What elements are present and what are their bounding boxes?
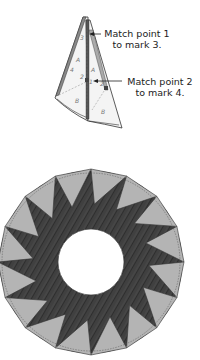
svg-text:2: 2 xyxy=(80,73,84,80)
svg-text:3: 3 xyxy=(80,34,84,41)
svg-text:B: B xyxy=(101,108,105,115)
diagram-canvas: 3 A 4 2 B A 1 2 B xyxy=(0,0,200,360)
wedge-pieces-illustration: 3 A 4 2 B A 1 2 B xyxy=(55,17,122,128)
svg-text:A: A xyxy=(75,56,80,63)
svg-text:1: 1 xyxy=(89,78,93,85)
svg-text:A: A xyxy=(90,66,95,73)
svg-text:B: B xyxy=(75,97,79,104)
svg-text:4: 4 xyxy=(70,66,74,73)
ring-center-hole xyxy=(58,229,124,295)
